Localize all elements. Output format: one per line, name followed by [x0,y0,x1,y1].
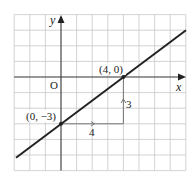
point-b-label: (4, 0) [99,63,123,76]
y-axis-label: y [49,13,56,27]
point-a-label: (0, −3) [26,110,56,123]
y-axis-arrow-icon [58,15,65,23]
run-label: 4 [89,126,95,138]
grid-lines [14,15,186,171]
coordinate-graph: x y O 4 3 (4, 0) (0, −3) [0,0,195,175]
point-0-neg3 [59,122,63,126]
x-axis-label: x [175,80,182,94]
origin-label: O [50,79,58,91]
rise-label: 3 [126,98,132,110]
function-line [16,30,186,158]
point-4-0 [121,75,125,79]
